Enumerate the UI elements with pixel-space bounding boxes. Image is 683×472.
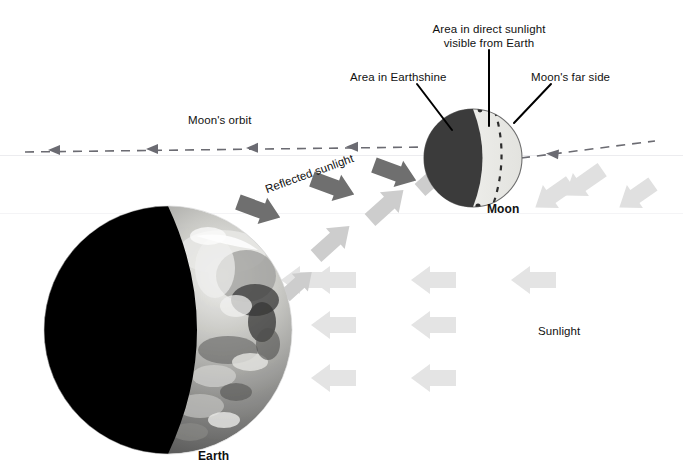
label-area-earthshine: Area in Earthshine xyxy=(350,70,446,84)
sunlight-arrow xyxy=(311,364,356,392)
earthshine-arrow xyxy=(307,215,359,266)
reflected-sunlight-arrow xyxy=(233,189,285,231)
reflected-sunlight-arrow xyxy=(369,152,421,194)
sunlight-arrow xyxy=(311,311,356,339)
sunlight-arrow-group-moon xyxy=(527,158,661,219)
label-moons-far-side: Moon's far side xyxy=(531,70,610,84)
earth-body xyxy=(40,204,292,458)
leader-far-side xyxy=(514,84,551,123)
sunlight-arrow xyxy=(411,266,456,294)
sunlight-arrow xyxy=(411,311,456,339)
leader-earthshine xyxy=(417,84,452,130)
moon-body xyxy=(420,105,522,211)
moon-orbit-path xyxy=(25,142,424,155)
moon-orbit-path-right xyxy=(521,141,655,159)
label-moons-orbit: Moon's orbit xyxy=(188,113,251,127)
earthshine-arrow xyxy=(361,179,413,230)
label-area-direct-sunlight-line1: Area in direct sunlight xyxy=(398,22,580,36)
label-area-direct-sunlight: Area in direct sunlight visible from Ear… xyxy=(398,22,580,50)
sunlight-arrow xyxy=(511,266,556,294)
sunlight-arrow xyxy=(611,172,661,218)
label-earth: Earth xyxy=(198,449,229,463)
sunlight-arrow-group xyxy=(281,266,556,392)
label-moon: Moon xyxy=(487,202,519,216)
diagram-canvas: Area in direct sunlight visible from Ear… xyxy=(0,0,683,472)
sunlight-arrow xyxy=(411,364,456,392)
label-area-direct-sunlight-line2: visible from Earth xyxy=(398,36,580,50)
label-sunlight: Sunlight xyxy=(538,324,580,338)
